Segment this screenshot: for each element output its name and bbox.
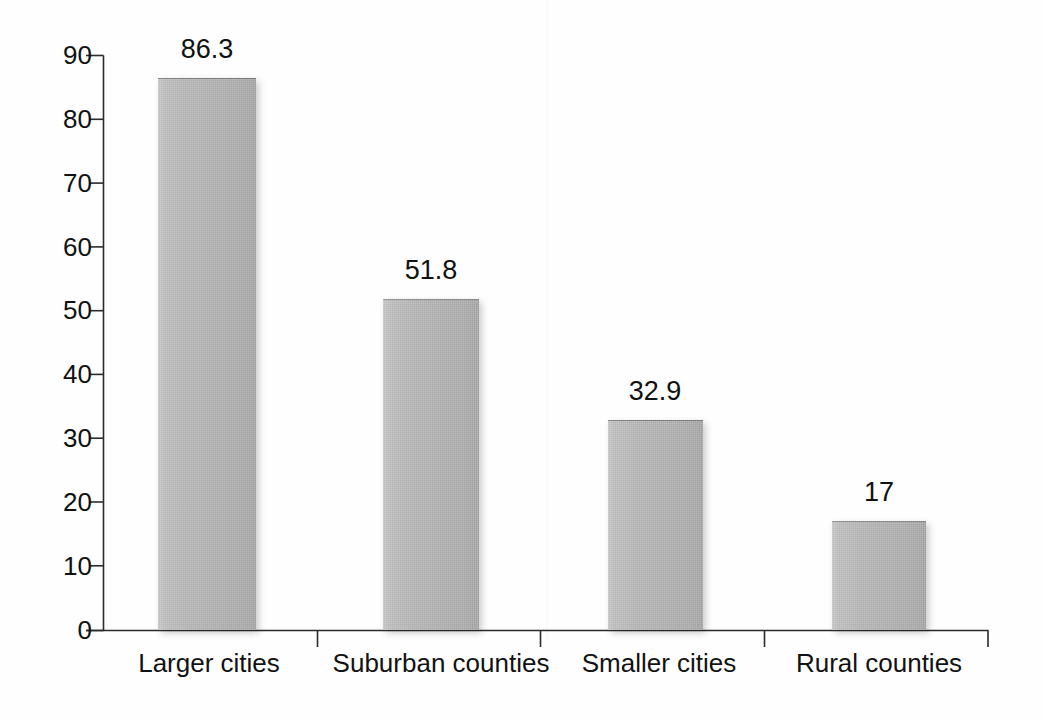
bar-rural-counties[interactable]	[832, 521, 926, 630]
data-label-rural-counties: 17	[819, 479, 939, 506]
bar-top-edge	[832, 521, 926, 522]
data-label-suburban-counties: 51.8	[371, 257, 491, 284]
bars-layer	[0, 0, 1043, 720]
category-label-smaller-cities: Smaller cities	[563, 648, 755, 678]
bar-larger-cities[interactable]	[158, 78, 256, 630]
bar-chart: 90 80 70 60 50 40 30 20 10 0 86.3 51.8 3…	[0, 0, 1043, 720]
bar-top-edge	[158, 78, 256, 79]
bar-top-edge	[383, 299, 479, 300]
data-label-smaller-cities: 32.9	[595, 378, 715, 405]
category-label-larger-cities: Larger cities	[117, 648, 301, 678]
category-label-rural-counties: Rural counties	[780, 648, 978, 678]
data-label-larger-cities: 86.3	[147, 36, 267, 63]
category-label-suburban-counties: Suburban counties	[326, 648, 556, 678]
bar-smaller-cities[interactable]	[608, 420, 703, 630]
bar-suburban-counties[interactable]	[383, 299, 479, 630]
bar-top-edge	[608, 420, 703, 421]
